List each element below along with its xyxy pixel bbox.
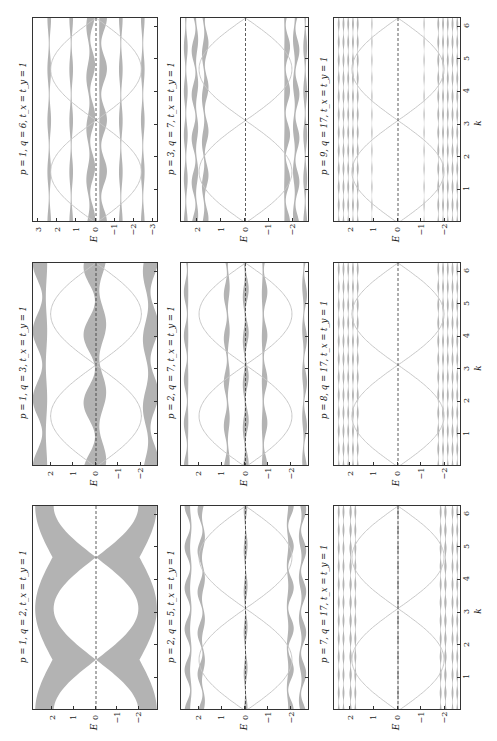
- k-axis-tick: [305, 644, 309, 645]
- k-axis-tick: [305, 271, 309, 272]
- k-axis-tick-label: 3: [462, 366, 471, 371]
- energy-band: [86, 18, 95, 222]
- e-axis-tick-label: −1: [264, 222, 273, 238]
- e-axis-tick-label: 1: [68, 466, 77, 482]
- e-axis-tick-label: 1: [369, 466, 378, 482]
- energy-band: [99, 18, 107, 222]
- k-axis-tick: [305, 303, 309, 304]
- k-axis-tick: [305, 433, 309, 434]
- plot-frame-p1q2: [32, 505, 158, 710]
- k-axis-tick-label: 3: [462, 121, 471, 126]
- energy-band: [437, 263, 439, 466]
- k-axis-tick: [457, 612, 461, 613]
- energy-band: [452, 263, 454, 466]
- e-axis-tick-label: −2: [440, 710, 449, 726]
- e-axis-tick-label: 2: [52, 222, 61, 238]
- e-axis-tick-label: 1: [216, 222, 225, 238]
- plot-area: [334, 263, 461, 466]
- e-axis-tick-label: 1: [69, 710, 78, 726]
- panel-title: p = 2, q = 5, t_x = t_y = 1: [166, 550, 176, 663]
- e-axis-tick-label: 2: [194, 710, 203, 726]
- e-axis-tick-label: 2: [345, 466, 354, 482]
- energy-band: [141, 18, 145, 222]
- k-axis-tick-label: 4: [462, 88, 471, 93]
- energy-band: [287, 506, 294, 710]
- k-axis-tick: [457, 58, 461, 59]
- k-axis-tick: [305, 189, 309, 190]
- k-axis-tick: [305, 156, 309, 157]
- energy-band: [442, 263, 444, 466]
- k-axis-tick-label: 1: [462, 674, 471, 679]
- panel-title: p = 7, q = 17, t_x = t_y = 1: [319, 544, 329, 662]
- k-axis-tick: [305, 91, 309, 92]
- energy-band: [303, 18, 307, 222]
- e-axis-tick-label: 2: [345, 222, 354, 238]
- energy-band: [452, 18, 454, 222]
- energy-band: [119, 18, 123, 222]
- k-axis-label: k: [473, 608, 483, 613]
- energy-band: [69, 18, 73, 222]
- plot-frame-p9q17: [333, 17, 461, 222]
- energy-band: [343, 18, 345, 222]
- e-axis-label: E: [239, 236, 249, 243]
- k-axis-tick: [457, 644, 461, 645]
- k-axis-tick: [457, 124, 461, 125]
- k-axis-tick: [457, 401, 461, 402]
- e-axis-tick-label: −1: [416, 466, 425, 482]
- k-axis-tick: [154, 368, 158, 369]
- plot-frame-p8q17: [333, 262, 461, 466]
- energy-band: [47, 18, 51, 222]
- k-axis-tick-label: 5: [462, 301, 471, 306]
- k-axis-tick: [305, 368, 309, 369]
- panel-title: p = 9, q = 17, t_x = t_y = 1: [319, 56, 329, 174]
- energy-band: [440, 506, 442, 710]
- e-axis-tick-label: −2: [288, 222, 297, 238]
- energy-band: [442, 18, 444, 222]
- energy-band: [371, 18, 372, 222]
- e-axis-tick-label: −1: [416, 710, 425, 726]
- k-axis-tick: [154, 271, 158, 272]
- energy-band: [35, 506, 96, 710]
- energy-band: [284, 18, 290, 222]
- k-axis-tick: [154, 189, 158, 190]
- e-axis-tick-label: −1: [263, 466, 272, 482]
- e-axis-tick-label: −2: [134, 710, 143, 726]
- k-axis-tick: [305, 514, 309, 515]
- e-axis-tick-label: −2: [286, 710, 295, 726]
- e-axis-tick-label: −1: [263, 710, 272, 726]
- k-axis-tick: [457, 156, 461, 157]
- energy-band: [447, 263, 449, 466]
- k-axis-tick: [457, 336, 461, 337]
- plot-frame-p1q3: [32, 262, 158, 466]
- plot-frame-p3q7: [180, 17, 309, 222]
- energy-band: [224, 263, 230, 466]
- panel-title: p = 8, q = 17, t_x = t_y = 1: [319, 301, 329, 419]
- plot-area: [334, 506, 461, 710]
- k-axis-tick: [154, 579, 158, 580]
- plot-area: [181, 18, 309, 222]
- k-axis-tick-label: 6: [462, 268, 471, 273]
- plot-area: [33, 506, 158, 710]
- energy-band: [424, 18, 425, 222]
- k-axis-tick-label: 2: [462, 642, 471, 647]
- energy-band: [302, 263, 307, 466]
- k-axis-tick: [305, 546, 309, 547]
- energy-band: [357, 18, 359, 222]
- energy-band: [338, 506, 340, 710]
- plot-frame-p2q7: [180, 262, 309, 466]
- plot-area: [181, 506, 309, 710]
- plot-area: [33, 263, 158, 466]
- e-axis-tick-label: 2: [345, 710, 354, 726]
- e-axis-tick-label: −1: [113, 466, 122, 482]
- e-axis-tick-label: 1: [71, 222, 80, 238]
- k-axis-tick: [457, 26, 461, 27]
- e-axis-tick-label: −2: [136, 466, 145, 482]
- plot-area: [33, 18, 158, 222]
- k-axis-tick-label: 2: [462, 154, 471, 159]
- k-axis-tick: [154, 546, 158, 547]
- energy-band: [347, 263, 349, 466]
- k-axis-tick: [457, 546, 461, 547]
- energy-band: [338, 18, 340, 222]
- k-axis-tick-label: 1: [462, 430, 471, 435]
- k-axis-tick: [305, 612, 309, 613]
